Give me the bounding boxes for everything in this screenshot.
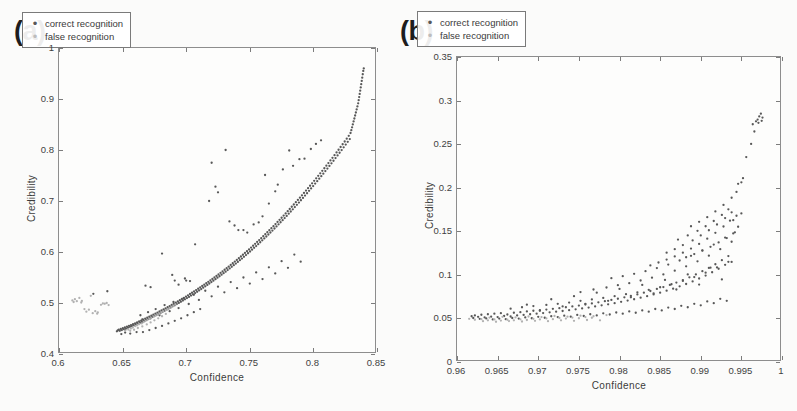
panel-b-ytick-label: 0.3 (414, 94, 452, 105)
panel-a-xtick (313, 48, 314, 52)
panel-a-ytick (59, 252, 63, 253)
panel-a-xtick-label: 0.65 (112, 357, 131, 368)
panel-a-ytick (371, 48, 375, 49)
panel-b-legend: • correct recognition • false recognitio… (417, 11, 526, 47)
legend-marker-correct-icon: • (423, 19, 437, 27)
panel-a-scatter-layer (59, 48, 375, 352)
legend-entry-correct: • correct recognition (423, 16, 518, 29)
panel-b-xtick-label: 0.98 (609, 365, 628, 376)
panel-b-xtick-label: 0.96 (447, 365, 466, 376)
panel-b-xtick-label: 0.99 (691, 365, 710, 376)
panel-b-ytick-label: 0.25 (414, 138, 452, 149)
panel-a-ytick-label: 1 (16, 42, 54, 53)
panel-b-xtick (498, 356, 499, 360)
panel-a-ytick (371, 99, 375, 100)
panel-b-ytick-label: 0.35 (414, 51, 452, 62)
panel-b-scatter-layer (457, 57, 780, 360)
panel-a-plot-area (58, 47, 376, 353)
legend-marker-false-icon: • (28, 33, 42, 41)
panel-b-xtick (701, 356, 702, 360)
panel-b-ytick (776, 275, 780, 276)
panel-b-xtick (498, 57, 499, 61)
panel-b-xtick (538, 356, 539, 360)
panel-a-ytick-label: 0.9 (16, 93, 54, 104)
panel-b-xtick (782, 57, 783, 61)
panel-b-xtick (579, 57, 580, 61)
panel-a-xtick (59, 348, 60, 352)
panel-b-ytick (457, 101, 461, 102)
panel-b-xtick-label: 0.995 (728, 365, 752, 376)
panel-b-ytick (457, 275, 461, 276)
panel-b-xtick-label: 1 (778, 365, 783, 376)
panel-a-ytick-label: 0.7 (16, 195, 54, 206)
panel-a-xtick-label: 0.6 (51, 357, 64, 368)
panel-b-ytick (457, 318, 461, 319)
panel-b-xtick (579, 356, 580, 360)
panel-a-ytick (371, 201, 375, 202)
panel-a-xtick (250, 48, 251, 52)
panel-b-ytick (457, 231, 461, 232)
panel-b-ytick (457, 188, 461, 189)
panel-b-ytick-label: 0.15 (414, 225, 452, 236)
panel-a-xtick (377, 348, 378, 352)
panel-b-ytick-label: 0.05 (414, 312, 452, 323)
panel-b-xtick (620, 57, 621, 61)
panel-a-xtick (186, 348, 187, 352)
panel-a-xtick-label: 0.85 (367, 357, 386, 368)
panel-a-ytick (59, 201, 63, 202)
panel-a-xtick (123, 48, 124, 52)
panel-b-xtick-label: 0.97 (528, 365, 547, 376)
panel-b-xtick (660, 57, 661, 61)
panel-b-ytick (776, 144, 780, 145)
series-correct-recognition (470, 112, 763, 320)
panel-b-ytick (776, 188, 780, 189)
legend-label-correct: correct recognition (45, 18, 123, 29)
panel-a-ytick (59, 354, 63, 355)
panel-a-ytick (371, 303, 375, 304)
panel-b-ytick (457, 362, 461, 363)
panel-b-xtick (620, 356, 621, 360)
panel-b-xaxis-title: Confidence (592, 380, 647, 391)
panel-a-ytick (371, 150, 375, 151)
legend-label-correct: correct recognition (440, 17, 518, 28)
panel-a-ytick-label: 0.5 (16, 297, 54, 308)
panel-b-ytick (776, 101, 780, 102)
legend-entry-false: • false recognition (423, 29, 518, 42)
panel-a-ytick (371, 252, 375, 253)
series-correct-recognition (92, 67, 365, 335)
panel-b-xtick (660, 356, 661, 360)
panel-b-ytick-label: 0 (414, 356, 452, 367)
panel-b-ytick (776, 362, 780, 363)
panel-b-ytick (457, 57, 461, 58)
panel-b-ytick-label: 0.1 (414, 268, 452, 279)
panel-b-ytick (776, 231, 780, 232)
panel-b-xtick (538, 57, 539, 61)
panel-b-ytick (776, 57, 780, 58)
legend-label-false: false recognition (440, 30, 509, 41)
panel-a-ytick-label: 0.8 (16, 144, 54, 155)
series-false-recognition (468, 314, 608, 323)
panel-a-xtick (186, 48, 187, 52)
panel-a-xtick (250, 348, 251, 352)
panel-a-ytick (371, 354, 375, 355)
panel-a-xtick (123, 348, 124, 352)
panel-a-ytick (59, 99, 63, 100)
panel-b-xtick (741, 57, 742, 61)
panel-b-xtick (782, 356, 783, 360)
legend-marker-correct-icon: • (28, 20, 42, 28)
panel-a-xtick (377, 48, 378, 52)
panel-b-xtick-label: 0.985 (647, 365, 671, 376)
panel-b-plot-area (456, 56, 781, 361)
panel-a-ytick-label: 0.6 (16, 246, 54, 257)
panel-b-xtick (457, 356, 458, 360)
legend-label-false: false recognition (45, 31, 114, 42)
panel-a-ytick (59, 150, 63, 151)
panel-a-ytick (59, 303, 63, 304)
panel-b-ytick (457, 144, 461, 145)
panel-a-xaxis-title: Confidence (190, 372, 245, 383)
figure-container: (a) • correct recognition • false recogn… (0, 0, 797, 411)
panel-a-xtick-label: 0.7 (179, 357, 192, 368)
panel-b-xtick-label: 0.975 (566, 365, 590, 376)
panel-a: (a) • correct recognition • false recogn… (0, 0, 400, 411)
panel-a-xtick-label: 0.8 (306, 357, 319, 368)
